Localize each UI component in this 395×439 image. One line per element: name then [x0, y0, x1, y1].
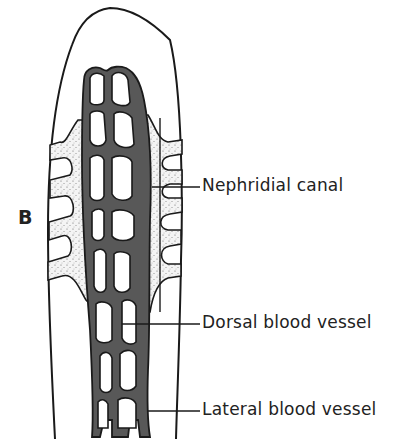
panel-label: B: [18, 206, 32, 228]
label-dorsal-blood-vessel: Dorsal blood vessel: [202, 312, 372, 332]
nephridial-canal-right: [146, 115, 182, 312]
label-nephridial-canal: Nephridial canal: [202, 175, 343, 195]
label-lateral-blood-vessel: Lateral blood vessel: [202, 399, 376, 419]
worm-diagram: [0, 0, 395, 439]
